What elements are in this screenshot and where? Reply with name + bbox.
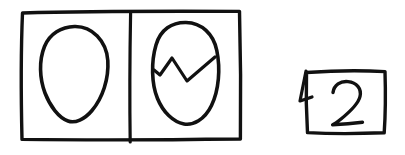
panel-divider xyxy=(130,13,131,142)
number-card[interactable] xyxy=(300,71,385,134)
sketch-canvas: Whole egg and cracked egg with number ca… xyxy=(0,0,405,155)
sketch-drawing xyxy=(0,0,405,155)
two-panel-frame[interactable] xyxy=(21,11,241,142)
